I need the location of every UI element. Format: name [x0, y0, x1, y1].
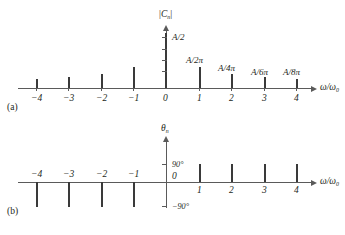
- panel-b-x-axis-label: ω/ω0: [320, 177, 339, 187]
- panel-b-x-tick-label-1: 1: [197, 186, 202, 196]
- panel-a-x-axis-label: ω/ω0: [320, 83, 339, 93]
- panel-a-x-tick-label-3: 3: [262, 94, 267, 104]
- panel-a-x-tick-label-2: 2: [229, 94, 234, 104]
- panel-a-stem-label-2: A/4π: [218, 64, 235, 73]
- panel-a-y-axis-bar-right: |: [170, 9, 172, 19]
- panel-a-stem-3: [264, 77, 266, 88]
- panel-b-x-tick-label-2: 2: [229, 186, 234, 196]
- panel-b-stem--2: [101, 182, 103, 207]
- panel-b-x-axis-arrow: [311, 180, 317, 186]
- panel-b-x-axis: [18, 182, 312, 183]
- panel-a-y-tick-a-over-2: [162, 37, 167, 38]
- panel-b-x-tick-label--2: −2: [96, 170, 107, 180]
- panel-a-x-axis-label-main: ω/ω: [320, 82, 336, 92]
- panel-b-x-tick-label-4: 4: [294, 186, 299, 196]
- panel-a-stem--1: [133, 67, 135, 88]
- panel-a-y-axis-label-sub: n: [167, 14, 170, 20]
- panel-b-y-tick-minus-90: [162, 206, 167, 207]
- panel-b-ytick-label-minus-90: −90°: [172, 203, 189, 211]
- panel-b-x-tick-label-3: 3: [262, 186, 267, 196]
- panel-b-y-axis-arrow: [163, 136, 169, 142]
- panel-a-stem--4: [36, 79, 38, 88]
- panel-b-y-axis-label-sub: n: [166, 128, 169, 134]
- panel-a-stem-2: [231, 74, 233, 88]
- panel-a-stem--3: [68, 77, 70, 88]
- panel-a-y-axis-arrow: [163, 25, 169, 31]
- panel-b-stem-3: [264, 164, 266, 182]
- panel-b-stem--4: [36, 182, 38, 207]
- panel-b-stem--1: [133, 182, 135, 207]
- panel-b-ytick-label-zero: 0: [172, 172, 177, 182]
- panel-b-stem-2: [231, 164, 233, 182]
- panel-a-caption: (a): [7, 103, 18, 113]
- panel-b-x-tick-label--3: −3: [63, 170, 74, 180]
- panel-a-stem-1: [199, 67, 201, 88]
- panel-b-stem--3: [68, 182, 70, 207]
- panel-a-stem--2: [101, 74, 103, 88]
- panel-a-stem-4: [296, 79, 298, 88]
- panel-a-ytick-label-a-over-2: A/2: [172, 33, 185, 42]
- panel-b-y-tick-plus-90: [162, 164, 167, 165]
- panel-b-caption: (b): [7, 207, 18, 217]
- panel-b-stem-4: [296, 164, 298, 182]
- panel-a-y-axis-label: |Cn|: [159, 10, 172, 20]
- panel-a-y-tick-minor-2: [162, 60, 167, 61]
- panel-b-y-axis-label: θn: [161, 124, 169, 134]
- panel-a-x-axis-arrow: [311, 86, 317, 92]
- panel-a-stem-label-3: A/6π: [251, 68, 268, 77]
- panel-a-stem-label-1: A/2π: [186, 56, 203, 65]
- panel-b-y-axis-label-main: θ: [161, 123, 166, 133]
- panel-a-x-axis: [18, 88, 312, 89]
- panel-a-stem-label-4: A/8π: [283, 68, 300, 77]
- panel-a-x-tick-label--3: −3: [63, 94, 74, 104]
- fourier-spectrum-figure: |Cn| A/2 ω/ω0 −4 −3 −2 −1 0 1 2 3 4: [0, 0, 345, 235]
- panel-b-x-tick-label--1: −1: [128, 170, 139, 180]
- panel-b-x-axis-label-main: ω/ω: [320, 176, 336, 186]
- panel-b-y-axis: [166, 141, 167, 208]
- panel-a-x-tick-label-1: 1: [197, 94, 202, 104]
- panel-b-ytick-label-plus-90: 90°: [172, 161, 183, 169]
- panel-b-x-axis-label-sub: 0: [336, 181, 339, 187]
- panel-b-stem-1: [199, 164, 201, 182]
- panel-a-y-tick-minor-1: [162, 49, 167, 50]
- panel-a-x-tick-label--2: −2: [96, 94, 107, 104]
- panel-b-x-tick-label--4: −4: [31, 170, 42, 180]
- panel-a-x-axis-label-sub: 0: [336, 87, 339, 93]
- panel-a-x-tick-label--4: −4: [31, 94, 42, 104]
- panel-a-x-tick-label--1: −1: [128, 94, 139, 104]
- panel-a-x-tick-label-0: 0: [163, 94, 168, 104]
- panel-a-x-tick-label-4: 4: [294, 94, 299, 104]
- panel-a-y-tick-minor-3: [162, 71, 167, 72]
